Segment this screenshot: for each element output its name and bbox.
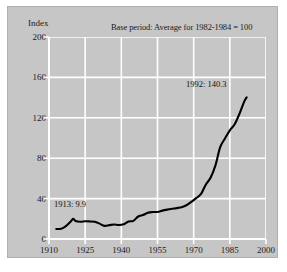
y-axis-title: Index [28,18,49,28]
x-tick-1910: 1910 [29,245,69,255]
x-tick-2000: 2000 [246,245,286,255]
y-tick-200: 200 [12,32,46,42]
y-tick-0: 0 [12,234,46,244]
annotation-1913: 1913: 9.9 [54,199,86,209]
annotation-1992: 1992: 140.3 [186,79,227,89]
y-tick-120: 120 [12,113,46,123]
x-axis-tick-labels: 1910192519401955197019852000 [49,245,266,259]
y-tick-160: 160 [12,72,46,82]
base-period-note: Base period: Average for 1982-1984 = 100 [111,22,252,32]
x-tick-1985: 1985 [210,245,250,255]
x-tick-1970: 1970 [174,245,214,255]
y-tick-40: 40 [12,194,46,204]
y-axis-tick-labels: 04080120160200 [11,37,46,239]
x-tick-1955: 1955 [138,245,178,255]
chart-figure: Index Base period: Average for 1982-1984… [0,0,287,272]
x-tick-1925: 1925 [65,245,105,255]
y-tick-80: 80 [12,153,46,163]
chart-panel: Index Base period: Average for 1982-1984… [7,6,278,258]
x-tick-1940: 1940 [101,245,141,255]
